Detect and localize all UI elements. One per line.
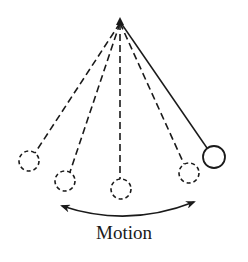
string-right	[120, 23, 184, 164]
motion-label: Motion	[0, 222, 248, 244]
bob-far-left	[19, 151, 39, 171]
string-far-left	[35, 23, 120, 153]
bob-right	[179, 163, 199, 183]
string-left	[70, 23, 120, 172]
motion-arrow	[62, 202, 194, 216]
string-current	[121, 23, 207, 148]
bob-current	[203, 146, 225, 168]
bob-center	[111, 179, 131, 199]
bob-left	[55, 171, 75, 191]
